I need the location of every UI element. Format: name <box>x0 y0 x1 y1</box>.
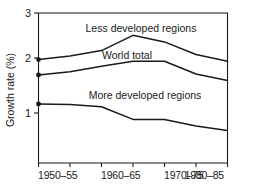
xtick-label-1950-55: 1950–55 <box>38 169 78 181</box>
y-axis-title: Growth rate (%) <box>4 53 16 127</box>
xtick-label-1980-85: 1980–85 <box>185 169 225 181</box>
ytick-label-2: 2 <box>25 52 31 64</box>
ytick-label-1: 1 <box>25 107 31 119</box>
series-world-total <box>36 61 227 80</box>
series-line-more-developed <box>39 104 228 130</box>
series-start-marker-less-developed <box>36 57 41 62</box>
series-start-marker-more-developed <box>36 102 41 107</box>
series-line-world-total <box>39 61 228 80</box>
growth-rate-line-chart: 3 2 1 Growth rate (%) 1950–55 1960–65 19… <box>0 0 256 191</box>
series-start-marker-world-total <box>36 73 41 78</box>
series-annotation-world-total: World total <box>102 49 152 61</box>
chart-svg: 3 2 1 Growth rate (%) 1950–55 1960–65 19… <box>0 0 256 191</box>
series-annotation-less-developed: Less developed regions <box>86 22 197 34</box>
series-more-developed-regions <box>36 102 227 131</box>
series-annotation-more-developed: More developed regions <box>89 89 202 101</box>
xtick-label-1960-65: 1960–65 <box>101 169 141 181</box>
ytick-label-3: 3 <box>25 7 31 19</box>
